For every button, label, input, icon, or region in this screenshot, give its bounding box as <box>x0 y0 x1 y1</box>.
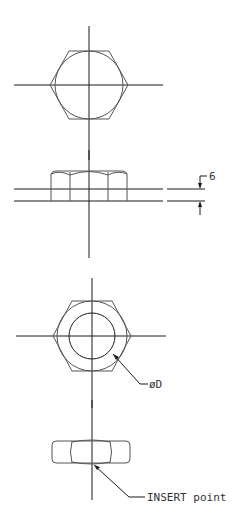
nut-outline <box>52 441 130 463</box>
arrow-down-icon <box>198 183 202 189</box>
hex-nut-side-view-insert: INSERT point <box>52 400 226 504</box>
hex-nut-top-view-with-bore: øD <box>16 278 166 408</box>
flat-edge-right <box>110 441 112 463</box>
cad-drawing-canvas: 6 øD INSERT point <box>0 0 252 521</box>
hex-nut-side-view: 6 <box>14 150 216 258</box>
hex-nut-top-view-plain <box>14 26 163 160</box>
thickness-dimension-label: 6 <box>209 170 216 183</box>
insert-leader <box>94 465 145 497</box>
insert-point-label: INSERT point <box>147 491 226 504</box>
arrow-up-icon <box>198 201 202 207</box>
chamfer-curve <box>72 440 110 464</box>
flat-edge-left <box>71 441 73 463</box>
diameter-label: øD <box>149 378 162 391</box>
